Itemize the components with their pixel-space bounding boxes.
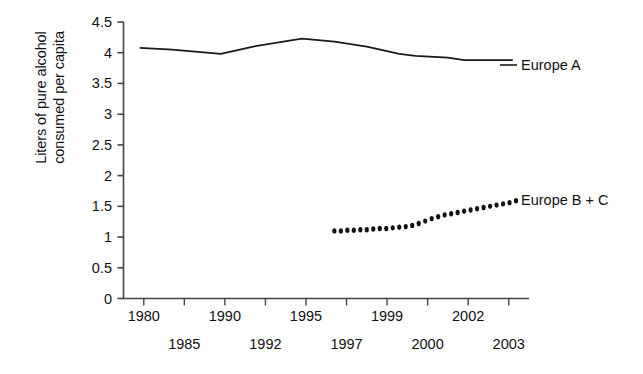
y-tick-label: 2.5 [60,137,112,153]
series-dot-europe-bc [352,228,356,233]
series-label-europe-bc: Europe B + C [521,192,608,208]
y-tick-label: 3 [60,106,112,122]
series-dot-europe-bc [397,225,401,230]
x-tick-label: 2002 [452,308,484,324]
series-dot-europe-bc [430,216,434,221]
x-axis-ticks [144,299,509,306]
series-dot-europe-bc [449,211,453,216]
y-tick-label: 3.5 [60,75,112,91]
series-dot-europe-bc [501,201,505,206]
series-dot-europe-bc [481,205,485,210]
x-tick-label: 1990 [209,308,241,324]
series-label-europe-a: Europe A [521,57,581,73]
series-dot-europe-bc [443,212,447,217]
x-tick-label: 1997 [330,336,362,352]
series-dot-europe-bc [378,226,382,231]
series-dot-europe-bc [371,226,375,231]
series-dot-europe-bc [332,228,336,233]
series-dot-europe-bc [494,202,498,207]
series-dot-europe-bc [456,210,460,215]
y-tick-label: 4.5 [60,14,112,30]
y-tick-label: 1 [60,229,112,245]
series-dot-europe-bc [514,198,518,203]
axis-lines [123,22,529,299]
series-dot-europe-bc [345,228,349,233]
series-line-europe-a [140,39,513,61]
x-tick-label: 1995 [290,308,322,324]
x-tick-label: 2000 [411,336,443,352]
x-tick-label: 1985 [168,336,200,352]
series-dot-europe-bc [339,228,343,233]
series-dot-europe-bc [469,207,473,212]
series-dot-europe-bc [475,206,479,211]
x-tick-label: 1999 [371,308,403,324]
series-dot-europe-bc [358,227,362,232]
series-dot-europe-bc [365,227,369,232]
series-dot-europe-bc [462,209,466,214]
x-tick-label: 1992 [249,336,281,352]
y-axis-ticks [118,22,124,299]
series-dot-europe-bc [410,223,414,228]
y-tick-label: 4 [60,45,112,61]
x-tick-label: 2003 [493,336,525,352]
series-dot-europe-bc [488,204,492,209]
y-tick-label: 0.5 [60,260,112,276]
y-tick-label: 0 [60,291,112,307]
series-dot-europe-bc [423,218,427,223]
x-tick-label: 1980 [128,308,160,324]
series-dot-europe-bc [384,226,388,231]
series-dot-europe-bc [404,224,408,229]
y-tick-label: 1.5 [60,198,112,214]
y-tick-label: 2 [60,168,112,184]
chart-container: Liters of pure alcohol consumed per capi… [0,0,643,374]
data-series-layer [140,39,518,234]
series-dot-europe-bc [436,214,440,219]
series-dot-europe-bc [391,225,395,230]
series-dot-europe-bc [507,200,511,205]
series-dot-europe-bc [417,221,421,226]
